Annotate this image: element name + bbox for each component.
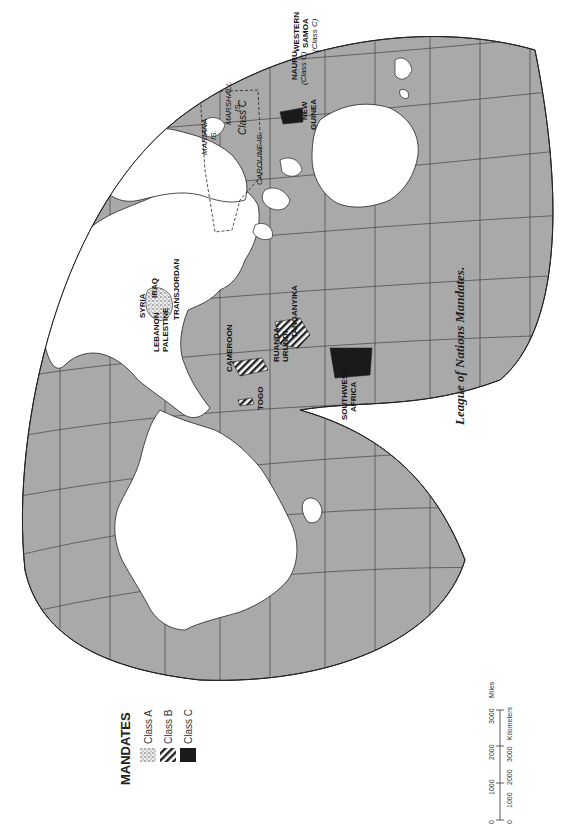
label-samoa-class: (Class C) — [310, 19, 319, 52]
label-nauru-class: (Class C) — [299, 52, 308, 85]
label-caroline: CAROLINE IS. — [255, 132, 264, 185]
scale-km-2000: 2000 — [506, 769, 513, 785]
label-cameroon: CAMEROON — [225, 324, 234, 372]
scale-miles-1000: 1000 — [488, 779, 495, 795]
label-southwest: SOUTHWEST — [340, 369, 349, 420]
mandate-southwest-africa — [330, 348, 372, 378]
label-ruanda: RUANDA- — [272, 325, 281, 362]
label-africa: AFRICA — [349, 382, 358, 412]
world-map — [0, 0, 567, 830]
scale-miles-2000: 2000 — [488, 744, 495, 760]
legend-swatch-class-a — [140, 748, 156, 762]
label-western: WESTERN — [292, 12, 301, 52]
label-class-c-pacific: Class C — [238, 100, 247, 135]
label-new: NEW — [300, 101, 309, 120]
scale-km-1000: 1000 — [506, 792, 513, 808]
legend-swatch-class-c — [180, 748, 196, 762]
scale-miles-label: Miles — [488, 682, 495, 698]
map-caption: League of Nations Mandates. — [452, 267, 468, 425]
scale-miles-3000: 3000 — [488, 708, 495, 724]
scale-bar — [496, 710, 504, 820]
scale-km-3000: 3000 — [506, 746, 513, 762]
legend-swatch-class-b — [160, 748, 176, 762]
legend-title: MANDATES — [118, 712, 133, 785]
label-iraq: IRAQ — [150, 278, 159, 298]
scale-km-label: Kilometers — [506, 707, 513, 740]
label-lebanon: LEBANON — [152, 312, 161, 352]
label-mariana-is: IS. — [209, 130, 218, 140]
label-marshall: MARSHALL — [224, 82, 233, 125]
label-mariana: MARIANA — [200, 119, 209, 155]
label-samoa: SAMOA — [301, 18, 310, 48]
legend-label-class-b: Class B — [163, 710, 174, 744]
label-guinea: GUINEA — [309, 99, 318, 130]
label-nauru: NAURU — [290, 51, 299, 80]
label-transjordan: TRANSJORDAN — [172, 259, 181, 320]
label-tanganyika: TANGANYIKA — [290, 285, 299, 338]
label-syria: SYRIA — [138, 294, 147, 318]
scale-miles-0: 0 — [488, 820, 495, 824]
south-america-edge — [470, 495, 546, 580]
scale-km-0: 0 — [506, 820, 513, 824]
label-togo: TOGO — [256, 387, 265, 410]
legend-label-class-a: Class A — [143, 710, 154, 744]
legend-label-class-c: Class C — [183, 709, 194, 744]
label-palestine: PALESTINE — [161, 308, 170, 352]
label-urundi: URUNDI — [281, 331, 290, 362]
